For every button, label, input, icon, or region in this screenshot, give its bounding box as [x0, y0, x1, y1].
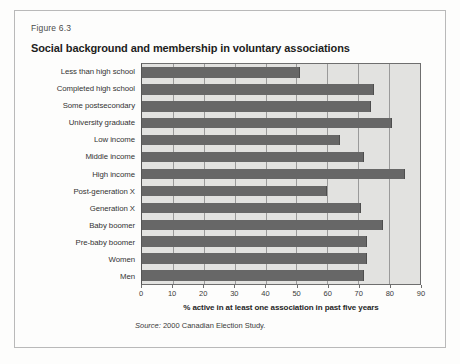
axis-tick — [203, 285, 204, 288]
figure-title: Social background and membership in volu… — [31, 42, 350, 54]
bar-row — [142, 182, 420, 199]
source-text: 2000 Canadian Election Study. — [161, 321, 266, 330]
bar — [142, 270, 364, 280]
axis-tick — [421, 285, 422, 288]
bar-row — [142, 81, 420, 98]
plot-area — [141, 63, 421, 285]
source-note: Source: 2000 Canadian Election Study. — [135, 321, 265, 330]
screenshot-page: Figure 6.3 Social background and members… — [0, 0, 460, 364]
bar — [142, 220, 383, 230]
category-label: High income — [31, 165, 141, 182]
category-label: Men — [31, 268, 141, 285]
bar — [142, 169, 405, 179]
plot-wrapper: Less than high schoolCompleted high scho… — [31, 63, 431, 291]
axis-tick-label: 80 — [386, 289, 394, 298]
category-label: Women — [31, 251, 141, 268]
bar — [142, 101, 371, 111]
bar-row — [142, 115, 420, 132]
bar — [142, 152, 364, 162]
bar-series — [142, 64, 420, 284]
bar-row — [142, 216, 420, 233]
bar — [142, 67, 300, 77]
bar — [142, 236, 367, 246]
x-axis-label: % active in at least one association in … — [141, 303, 421, 312]
bar-row — [142, 233, 420, 250]
axis-tick-label: 30 — [230, 289, 238, 298]
bar — [142, 118, 392, 128]
category-label: Pre-baby boomer — [31, 234, 141, 251]
bar — [142, 253, 367, 263]
axis-tick-label: 50 — [292, 289, 300, 298]
bar-row — [142, 64, 420, 81]
axis-tick — [172, 285, 173, 288]
category-axis-labels: Less than high schoolCompleted high scho… — [31, 63, 141, 285]
axis-tick — [265, 285, 266, 288]
category-label: Completed high school — [31, 80, 141, 97]
value-axis: 0102030405060708090 — [141, 285, 421, 301]
axis-tick-label: 0 — [139, 289, 143, 298]
category-label: Generation X — [31, 200, 141, 217]
category-label: Some postsecondary — [31, 97, 141, 114]
axis-tick — [359, 285, 360, 288]
axis-tick-label: 10 — [168, 289, 176, 298]
bar-row — [142, 149, 420, 166]
bar-row — [142, 199, 420, 216]
source-prefix: Source: — [135, 321, 161, 330]
bar-row — [142, 98, 420, 115]
axis-tick-label: 90 — [417, 289, 425, 298]
axis-tick — [328, 285, 329, 288]
figure-card: Figure 6.3 Social background and members… — [14, 10, 446, 348]
axis-tick-label: 40 — [261, 289, 269, 298]
bar-row — [142, 250, 420, 267]
bar — [142, 203, 361, 213]
category-label: Less than high school — [31, 63, 141, 80]
bar — [142, 84, 374, 94]
bar — [142, 186, 327, 196]
category-label: University graduate — [31, 114, 141, 131]
axis-tick-label: 60 — [323, 289, 331, 298]
axis-tick — [390, 285, 391, 288]
bar-chart: Less than high schoolCompleted high scho… — [31, 63, 431, 333]
bar-row — [142, 267, 420, 284]
bar-row — [142, 132, 420, 149]
category-label: Low income — [31, 131, 141, 148]
axis-tick-label: 20 — [199, 289, 207, 298]
bar-row — [142, 166, 420, 183]
axis-tick — [297, 285, 298, 288]
category-label: Middle income — [31, 148, 141, 165]
axis-tick-label: 70 — [355, 289, 363, 298]
axis-tick — [141, 285, 142, 288]
bar — [142, 135, 340, 145]
category-label: Baby boomer — [31, 217, 141, 234]
category-label: Post-generation X — [31, 183, 141, 200]
axis-tick — [234, 285, 235, 288]
figure-number: Figure 6.3 — [31, 23, 71, 33]
